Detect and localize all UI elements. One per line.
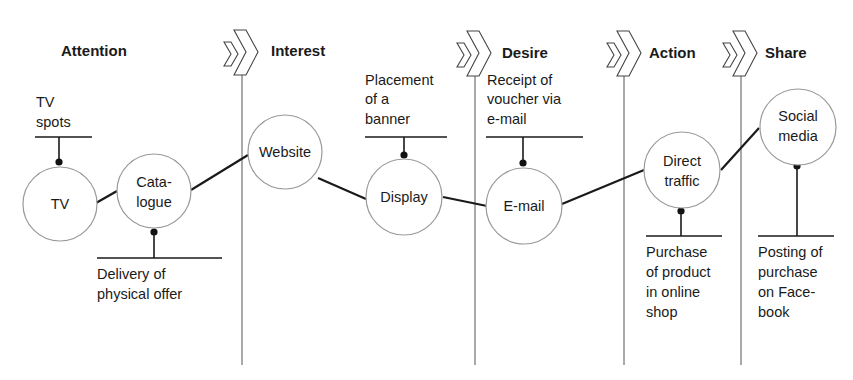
svg-text:Delivery of: Delivery of	[97, 266, 166, 282]
annotation-delivery-physical-offer: Delivery of physical offer	[97, 228, 222, 302]
customer-journey-diagram: Attention Interest Desire Action Share T…	[0, 0, 853, 380]
svg-text:physical offer: physical offer	[97, 286, 182, 302]
svg-text:logue: logue	[136, 194, 171, 210]
annotation-facebook-post: Posting of purchase on Face- book	[758, 162, 834, 320]
node-tv: TV	[23, 167, 97, 241]
svg-text:voucher via: voucher via	[487, 91, 562, 107]
connector-email-direct-traffic	[562, 170, 644, 204]
svg-text:Cata-: Cata-	[136, 174, 172, 190]
svg-text:Direct: Direct	[663, 153, 701, 169]
svg-text:Posting of: Posting of	[758, 244, 823, 260]
svg-text:E-mail: E-mail	[503, 198, 544, 214]
svg-text:Social: Social	[778, 108, 818, 124]
svg-text:banner: banner	[365, 111, 410, 127]
svg-text:book: book	[758, 304, 790, 320]
connector-direct-traffic-social-media	[721, 128, 759, 170]
svg-text:on Face-: on Face-	[758, 284, 815, 300]
double-chevron-icon	[224, 30, 258, 75]
svg-text:TV: TV	[36, 94, 55, 110]
svg-text:in online: in online	[646, 284, 700, 300]
svg-text:Receipt of: Receipt of	[487, 72, 553, 88]
connector-catalogue-website	[191, 155, 248, 190]
double-chevron-icon	[607, 31, 641, 76]
connector-tv-catalogue	[96, 191, 117, 203]
node-catalogue: Cata- logue	[117, 154, 191, 228]
connector-display-email	[443, 197, 487, 206]
svg-text:of product: of product	[646, 264, 711, 280]
annotation-banner-placement: Placement of a banner	[365, 72, 447, 159]
node-website: Website	[248, 115, 322, 189]
node-display: Display	[366, 159, 442, 235]
stage-label-desire: Desire	[502, 44, 548, 61]
svg-text:of a: of a	[365, 91, 390, 107]
svg-text:media: media	[778, 128, 818, 144]
anchor-dot	[55, 158, 62, 165]
svg-text:spots: spots	[36, 114, 71, 130]
svg-text:e-mail: e-mail	[487, 111, 526, 127]
anchor-dot	[519, 159, 526, 166]
stage-label-interest: Interest	[271, 42, 325, 59]
anchor-dot	[400, 151, 407, 158]
stage-label-attention: Attention	[61, 42, 127, 59]
svg-text:shop: shop	[646, 304, 677, 320]
annotation-voucher-receipt: Receipt of voucher via e-mail	[486, 72, 583, 167]
svg-text:Website: Website	[259, 144, 311, 160]
annotation-tv-spots: TV spots	[35, 94, 92, 166]
stage-label-share: Share	[765, 44, 807, 61]
svg-text:Display: Display	[380, 189, 428, 205]
double-chevron-icon	[457, 31, 491, 76]
svg-text:Placement: Placement	[365, 72, 434, 88]
svg-text:Purchase: Purchase	[646, 244, 707, 260]
svg-text:purchase: purchase	[758, 264, 818, 280]
annotation-online-purchase: Purchase of product in online shop	[646, 207, 722, 320]
node-social-media: Social media	[760, 89, 836, 165]
stage-label-action: Action	[649, 44, 696, 61]
svg-text:traffic: traffic	[664, 173, 699, 189]
node-direct-traffic: Direct traffic	[644, 132, 720, 208]
svg-text:TV: TV	[51, 196, 70, 212]
double-chevron-icon	[723, 31, 757, 76]
connector-website-display	[318, 178, 366, 199]
node-email: E-mail	[486, 168, 562, 244]
